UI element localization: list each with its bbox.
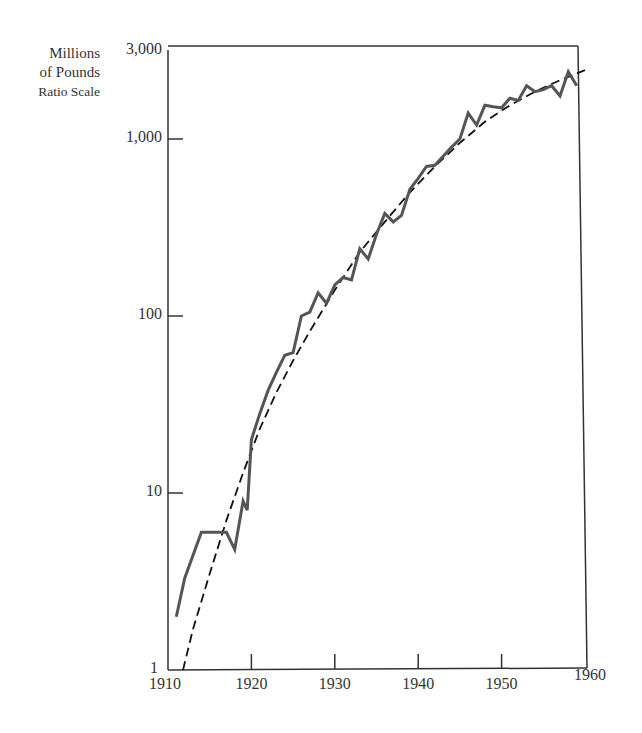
y-tick-label: 100 <box>102 305 162 323</box>
x-tick-label: 1940 <box>388 675 448 693</box>
y-axis-ticks <box>168 139 183 493</box>
chart-canvas <box>0 0 642 733</box>
x-axis-ticks <box>251 654 501 669</box>
y-tick-label: 3,000 <box>102 40 162 58</box>
x-tick-label: 1930 <box>305 675 365 693</box>
y-tick-label: 1,000 <box>102 128 162 146</box>
plot-frame <box>168 46 587 670</box>
x-tick-label: 1910 <box>135 675 195 693</box>
y-axis-label: Millions of Pounds Ratio Scale <box>38 44 100 101</box>
y-axis-label-line-3: Ratio Scale <box>38 82 100 101</box>
x-tick-label: 1950 <box>472 675 532 693</box>
trend-line-dashed <box>183 70 585 670</box>
x-tick-label: 1920 <box>221 675 281 693</box>
y-axis-label-line-1: Millions <box>38 44 100 63</box>
y-tick-label: 10 <box>102 482 162 500</box>
actual-data-line <box>176 72 576 617</box>
x-tick-label: 1960 <box>560 666 620 684</box>
y-axis-label-line-2: of Pounds <box>38 63 100 82</box>
